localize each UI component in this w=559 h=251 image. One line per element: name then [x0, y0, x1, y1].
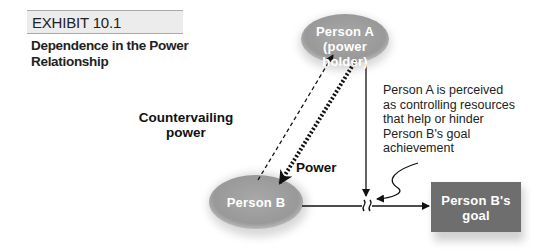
annotation-line: as controlling resources — [383, 98, 553, 113]
countervailing-line1: Countervailing — [131, 110, 241, 125]
person-b-label: Person B — [216, 195, 296, 210]
annotation-text: Person A is perceived as controlling res… — [383, 83, 553, 156]
annotation-line: Person A is perceived — [383, 83, 553, 98]
annotation-line: achievement — [383, 141, 553, 156]
person-a-line2: (power holder) — [301, 39, 389, 69]
break-mark-right — [369, 200, 371, 211]
annotation-pointer-arrow — [377, 163, 418, 199]
annotation-line: Person B's goal — [383, 127, 553, 142]
person-a-line1: Person A — [301, 24, 389, 39]
countervailing-line2: power — [131, 125, 241, 140]
break-mark-left — [363, 200, 365, 211]
goal-line1: Person B's — [431, 193, 521, 208]
annotation-line: that help or hinder — [383, 112, 553, 127]
countervailing-power-label: Countervailing power — [131, 110, 241, 140]
goal-label: Person B's goal — [431, 193, 521, 223]
power-label: Power — [296, 160, 346, 175]
person-a-label: Person A (power holder) — [301, 24, 389, 69]
goal-line2: goal — [431, 208, 521, 223]
